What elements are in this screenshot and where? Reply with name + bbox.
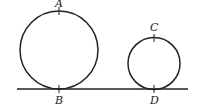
label-a: A <box>54 0 63 10</box>
small-circle <box>128 38 180 90</box>
label-c: C <box>150 21 159 34</box>
large-circle <box>20 11 98 89</box>
diagram-canvas: A B C D <box>0 0 199 108</box>
label-b: B <box>54 94 63 107</box>
label-d: D <box>149 94 159 107</box>
